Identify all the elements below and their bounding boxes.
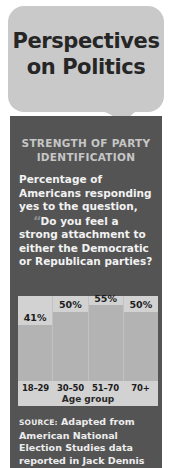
bar-chart: 41% 50% 55% 50% 18–29 30–50 51–: [18, 296, 158, 406]
x-axis-tick: 51–70: [88, 383, 123, 393]
x-axis-tick-labels: 18–29 30–50 51–70 70+: [18, 381, 158, 394]
survey-question: “Do you feel a strong attachment to eith…: [19, 214, 153, 269]
page-title: Perspectives on Politics: [8, 28, 164, 80]
bar-value-label: 50%: [53, 299, 87, 310]
content-panel: STRENGTH OF PARTY IDENTIFICATION Percent…: [10, 116, 162, 468]
chart-plot-area: 41% 50% 55% 50%: [18, 296, 158, 381]
bar-column: 50%: [124, 296, 158, 381]
source-label: SOURCE:: [19, 418, 58, 427]
bar-value-label: 50%: [124, 299, 158, 310]
bar: [18, 325, 52, 381]
section-heading-line-1: STRENGTH OF PARTY: [20, 136, 152, 150]
page-title-line-2: on Politics: [8, 54, 164, 80]
x-axis-tick: 30–50: [53, 383, 88, 393]
section-heading: STRENGTH OF PARTY IDENTIFICATION: [20, 136, 152, 164]
page-title-line-1: Perspectives: [8, 28, 164, 54]
source-note: SOURCE: Adapted from American National E…: [19, 416, 153, 467]
bar-value-label: 41%: [18, 312, 52, 323]
speech-bubble-body: Perspectives on Politics: [8, 6, 164, 112]
bar: [53, 312, 87, 381]
bar: [89, 305, 123, 381]
bar-column: 50%: [53, 296, 88, 381]
quote-mark-icon: “: [33, 213, 41, 228]
x-axis-tick: 18–29: [18, 383, 53, 393]
bar-value-label: 55%: [89, 293, 123, 304]
bar-column: 55%: [89, 296, 124, 381]
x-axis-title: Age group: [18, 394, 158, 404]
section-heading-line-2: IDENTIFICATION: [20, 150, 152, 164]
speech-bubble: Perspectives on Politics: [8, 6, 164, 132]
x-axis-tick: 70+: [123, 383, 158, 393]
lead-paragraph: Percentage of Americans responding yes t…: [19, 173, 153, 214]
bar-column: 41%: [18, 296, 53, 381]
bar: [124, 312, 158, 381]
infographic-sidebar: Perspectives on Politics STRENGTH OF PAR…: [0, 0, 172, 468]
